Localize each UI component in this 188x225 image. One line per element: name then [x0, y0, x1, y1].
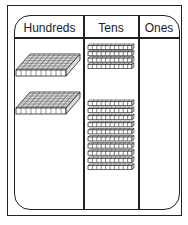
base-ten-blocks: [0, 0, 188, 225]
ten-rod-icon: [88, 128, 134, 134]
ten-rod-icon: [88, 157, 134, 163]
ten-rod-icon: [88, 100, 134, 106]
hundred-flat-icon: [16, 92, 80, 114]
ten-rod-icon: [88, 63, 134, 69]
ten-rod-icon: [88, 143, 134, 149]
hundred-flat-icon: [16, 54, 80, 76]
ten-rod-icon: [88, 121, 134, 127]
ten-rod-icon: [88, 57, 134, 63]
ten-rod-icon: [88, 107, 134, 113]
ten-rod-icon: [88, 44, 134, 50]
ten-rod-icon: [88, 150, 134, 156]
ten-rod-icon: [88, 164, 134, 170]
ten-rod-icon: [88, 136, 134, 142]
ten-rod-icon: [88, 50, 134, 56]
ten-rod-icon: [88, 114, 134, 120]
